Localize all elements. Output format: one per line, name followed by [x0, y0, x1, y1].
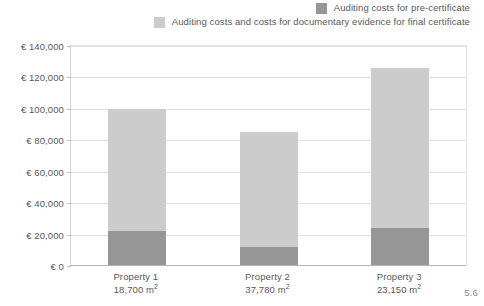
y-axis-tick-label: € 80,000 — [26, 135, 64, 146]
bar-column[interactable] — [371, 46, 429, 266]
bar-segment-pre-certificate[interactable] — [108, 231, 166, 266]
bar-segment-final-certificate[interactable] — [371, 68, 429, 228]
y-axis-tick-label: € 60,000 — [26, 166, 64, 177]
x-axis-category-label: Property 118,700 m2 — [70, 271, 202, 296]
y-axis-tick-label: € 140,000 — [21, 41, 64, 52]
x-axis-category-name: Property 1 — [70, 271, 202, 284]
bars-layer — [71, 46, 466, 266]
x-axis-line — [70, 265, 466, 266]
x-axis-category-label: Property 237,780 m2 — [202, 271, 334, 296]
legend-label-final-certificate: Auditing costs and costs for documentary… — [172, 16, 470, 28]
x-axis-labels: Property 118,700 m2Property 237,780 m2Pr… — [70, 271, 466, 305]
y-axis-tick-label: € 120,000 — [21, 72, 64, 83]
legend-swatch-pre-certificate-icon — [316, 3, 327, 14]
bar-segment-pre-certificate[interactable] — [371, 228, 429, 266]
legend-swatch-final-certificate-icon — [154, 17, 165, 28]
plot-area: € 140,000€ 120,000€ 100,000€ 80,000€ 60,… — [70, 45, 467, 266]
chart-container: Auditing costs for pre-certificate Audit… — [0, 0, 484, 306]
y-axis-tick-label: € 40,000 — [26, 198, 64, 209]
x-axis-category-name: Property 3 — [333, 271, 465, 284]
bar-column[interactable] — [108, 46, 166, 266]
legend-item-final-certificate: Auditing costs and costs for documentary… — [154, 16, 470, 28]
bar-segment-final-certificate[interactable] — [108, 109, 166, 232]
y-axis-tick-label: € 100,000 — [21, 103, 64, 114]
x-axis-category-label: Property 323,150 m2 — [333, 271, 465, 296]
y-axis-tick-label: € 20,000 — [26, 229, 64, 240]
y-axis-tick — [67, 266, 71, 267]
bar-segment-final-certificate[interactable] — [240, 132, 298, 247]
chart-legend: Auditing costs for pre-certificate Audit… — [50, 2, 470, 28]
legend-item-pre-certificate: Auditing costs for pre-certificate — [316, 2, 470, 14]
x-axis-category-area: 37,780 m2 — [202, 284, 334, 297]
y-axis-tick-label: € 0 — [51, 261, 65, 272]
x-axis-category-name: Property 2 — [202, 271, 334, 284]
figure-caption: 5.6 — [464, 287, 478, 298]
legend-label-pre-certificate: Auditing costs for pre-certificate — [334, 2, 470, 14]
x-axis-category-area: 18,700 m2 — [70, 284, 202, 297]
x-axis-category-area: 23,150 m2 — [333, 284, 465, 297]
bar-segment-pre-certificate[interactable] — [240, 247, 298, 266]
bar-column[interactable] — [240, 46, 298, 266]
